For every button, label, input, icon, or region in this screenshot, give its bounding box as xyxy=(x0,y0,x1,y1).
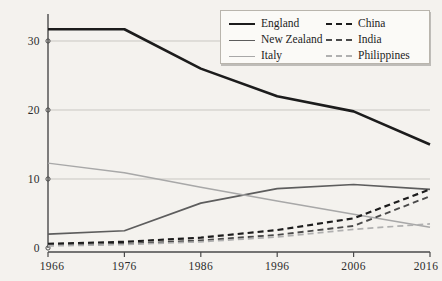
x-tick-label: 1976 xyxy=(112,260,137,272)
x-tick-label: 1986 xyxy=(188,260,213,272)
legend-label: Italy xyxy=(261,50,282,62)
series-line-new-zealand xyxy=(48,185,430,235)
legend-swatch xyxy=(229,56,255,57)
line-chart: 0102030 196619761986199620062016 England… xyxy=(0,0,442,281)
x-axis xyxy=(48,252,430,257)
legend-label: India xyxy=(358,34,382,46)
legend-swatch xyxy=(326,23,352,25)
y-tick-label: 10 xyxy=(28,173,40,185)
y-tick-label: 30 xyxy=(28,35,40,47)
legend-item-italy: Italy xyxy=(229,48,326,64)
legend-item-new-zealand: New Zealand xyxy=(229,32,326,48)
y-tick-label: 20 xyxy=(28,104,40,116)
x-tick-label: 2006 xyxy=(341,260,366,272)
y-tick-labels: 0102030 xyxy=(28,35,40,254)
legend-swatch xyxy=(326,55,352,57)
legend-swatch xyxy=(326,39,352,41)
x-tick-label: 1996 xyxy=(265,260,290,272)
legend-label: Philippines xyxy=(358,50,410,62)
legend-swatch xyxy=(229,40,255,41)
legend-item-india: India xyxy=(326,32,423,48)
y-axis xyxy=(46,14,50,250)
x-tick-labels: 196619761986199620062016 xyxy=(40,260,439,272)
x-tick-label: 1966 xyxy=(40,260,65,272)
legend-item-china: China xyxy=(326,16,423,32)
legend-label: England xyxy=(261,18,299,30)
chart-legend: EnglandChinaNew ZealandIndiaItalyPhilipp… xyxy=(220,10,430,64)
legend-label: China xyxy=(358,18,385,30)
series-line-china xyxy=(48,189,430,244)
legend-swatch xyxy=(229,23,255,25)
legend-item-england: England xyxy=(229,16,326,32)
legend-item-philippines: Philippines xyxy=(326,48,423,64)
y-tick-label: 0 xyxy=(34,242,40,254)
series-line-india xyxy=(48,196,430,245)
legend-label: New Zealand xyxy=(261,34,323,46)
x-tick-label: 2016 xyxy=(414,260,439,272)
